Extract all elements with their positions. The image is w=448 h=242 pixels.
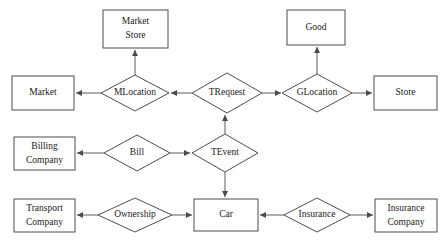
relationship-label: TEvent: [211, 147, 239, 157]
entity-car[interactable]: Car: [194, 199, 258, 231]
entity-label: Transport: [26, 203, 63, 213]
relationship-tevent[interactable]: TEvent: [192, 134, 258, 172]
entity-label: Market: [122, 16, 150, 26]
entity-label: Market: [29, 87, 57, 97]
entity-label: Company: [26, 155, 63, 165]
entity-label: Car: [219, 209, 234, 219]
entity-label: Store: [395, 87, 415, 97]
entity-transport_company[interactable]: TransportCompany: [14, 199, 75, 232]
relationship-glocation[interactable]: GLocation: [282, 74, 352, 112]
entity-label: Insurance: [388, 203, 425, 213]
entity-market[interactable]: Market: [12, 76, 74, 110]
relationship-label: GLocation: [297, 87, 338, 97]
edges-layer: [76, 47, 373, 215]
entity-label: Company: [388, 217, 425, 227]
entity-insurance_company[interactable]: InsuranceCompany: [375, 199, 437, 232]
relationship-label: MLocation: [114, 87, 156, 97]
relationship-insurance[interactable]: Insurance: [284, 198, 350, 232]
er-diagram-svg: MarketStoreGoodMarketStoreBillingCompany…: [0, 0, 448, 242]
entity-store[interactable]: Store: [374, 76, 437, 110]
relationship-bill[interactable]: Bill: [104, 135, 170, 171]
entity-billing_company[interactable]: BillingCompany: [14, 137, 75, 170]
entity-label: Store: [125, 30, 145, 40]
relationship-label: TRequest: [209, 87, 246, 97]
er-diagram-canvas: MarketStoreGoodMarketStoreBillingCompany…: [0, 0, 448, 242]
relationship-trequest[interactable]: TRequest: [192, 73, 262, 113]
relationship-label: Insurance: [299, 209, 336, 219]
entity-market_store[interactable]: MarketStore: [103, 10, 168, 48]
relationship-label: Bill: [130, 147, 145, 157]
entity-label: Good: [305, 22, 326, 32]
relationship-mlocation[interactable]: MLocation: [101, 75, 169, 111]
entity-label: Company: [26, 217, 63, 227]
entity-good[interactable]: Good: [287, 10, 345, 45]
relationship-label: Ownership: [114, 209, 156, 219]
relationship-ownership[interactable]: Ownership: [98, 198, 172, 232]
entity-label: Billing: [31, 141, 58, 151]
